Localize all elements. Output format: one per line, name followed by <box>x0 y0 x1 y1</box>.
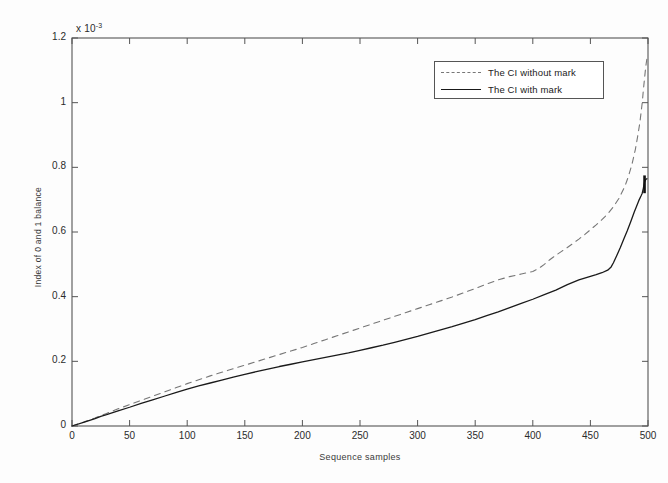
y-tick-label: 1.2 <box>52 31 66 42</box>
x-tick-label: 450 <box>570 430 610 441</box>
x-tick-label: 50 <box>110 430 150 441</box>
x-tick-label: 300 <box>398 430 438 441</box>
series-line-with-mark <box>72 179 647 426</box>
legend-entry-label: The CI without mark <box>488 67 576 78</box>
y-tick-label: 0 <box>60 419 66 430</box>
x-tick-label: 250 <box>340 430 380 441</box>
y-tick-label: 0.2 <box>52 354 66 365</box>
x-tick-label: 200 <box>282 430 322 441</box>
legend-entry-label: The CI with mark <box>488 84 562 95</box>
legend-dashed-line-icon <box>439 68 483 78</box>
x-tick-label: 150 <box>225 430 265 441</box>
series-line-without-mark <box>72 59 647 426</box>
legend-solid-line-icon <box>439 85 483 95</box>
legend-entry-without-mark: The CI without mark <box>439 64 576 81</box>
x-axis-title: Sequence samples <box>72 452 648 462</box>
chart-legend: The CI without mark The CI with mark <box>434 61 604 99</box>
chart-figure: x 10-3 00.20.40.60.811.2 050100150200250… <box>0 0 668 483</box>
x-tick-label: 500 <box>628 430 668 441</box>
y-axis-title: Index of 0 and 1 balance <box>33 137 43 337</box>
x-tick-label: 350 <box>455 430 495 441</box>
y-tick-label: 1 <box>60 96 66 107</box>
y-tick-label: 0.6 <box>52 225 66 236</box>
x-tick-label: 100 <box>167 430 207 441</box>
y-tick-label: 0.8 <box>52 160 66 171</box>
legend-entry-with-mark: The CI with mark <box>439 81 562 98</box>
x-tick-label: 0 <box>52 430 92 441</box>
y-tick-label: 0.4 <box>52 290 66 301</box>
x-tick-label: 400 <box>513 430 553 441</box>
